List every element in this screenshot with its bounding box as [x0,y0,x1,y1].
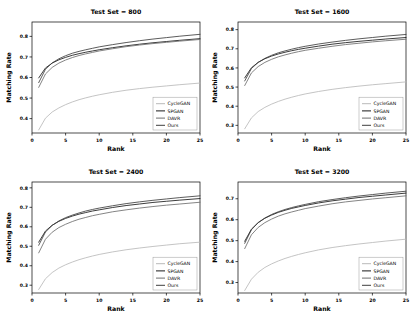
x-tick-label: 20 [163,298,169,303]
legend-label-cyclegan: CycleGAN [374,101,397,106]
y-axis-label: Matching Rate [5,212,13,263]
y-tick-label: 0.4 [226,259,234,264]
chart-panel-4: Test Set = 320005101520250.30.40.50.60.7… [206,160,412,319]
x-tick-label: 5 [270,298,273,303]
y-tick-label: 0.6 [20,75,28,80]
chart-panel-2: Test Set = 160005101520250.30.40.50.60.7… [206,0,412,160]
x-tick-label: 15 [130,138,136,143]
legend-label-davr: DAVR [168,116,181,121]
y-tick-label: 0.8 [20,186,28,191]
chart-panel-3: Test Set = 240005101520250.30.40.50.60.7… [0,160,206,319]
x-axis-label: Rank [313,305,331,312]
x-tick-label: 5 [270,138,273,143]
x-tick-label: 25 [403,298,409,303]
y-tick-label: 0.5 [226,85,234,90]
y-tick-label: 0.3 [226,280,234,285]
legend-label-davr: DAVR [374,116,387,121]
y-tick-label: 0.7 [20,205,28,210]
y-tick-label: 0.3 [226,123,234,128]
legend-label-spgan: SPGAN [374,269,390,274]
x-tick-label: 15 [336,138,342,143]
x-tick-label: 0 [236,298,239,303]
y-tick-label: 0.5 [20,96,28,101]
legend-label-ours: Ours [374,283,385,288]
x-tick-label: 25 [197,138,203,143]
y-tick-label: 0.3 [20,283,28,288]
x-tick-label: 0 [30,138,33,143]
x-tick-label: 10 [302,138,308,143]
legend-label-cyclegan: CycleGAN [374,261,397,266]
x-tick-label: 25 [403,138,409,143]
x-tick-label: 10 [302,298,308,303]
x-tick-label: 5 [64,298,67,303]
y-tick-label: 0.4 [226,104,234,109]
x-tick-label: 15 [130,298,136,303]
chart-panel-1: Test Set = 80005101520250.40.50.60.70.8R… [0,0,206,160]
x-tick-label: 0 [236,138,239,143]
x-tick-label: 15 [336,298,342,303]
legend-label-ours: Ours [168,283,179,288]
x-axis-label: Rank [107,145,125,152]
legend-label-spgan: SPGAN [168,269,184,274]
y-axis-label: Matching Rate [5,52,13,103]
x-tick-label: 10 [96,138,102,143]
x-tick-label: 5 [64,138,67,143]
y-axis-label: Matching Rate [211,212,219,263]
x-tick-label: 25 [197,298,203,303]
y-tick-label: 0.7 [226,46,234,51]
legend-label-davr: DAVR [374,276,387,281]
y-tick-label: 0.6 [226,217,234,222]
y-tick-label: 0.6 [20,224,28,229]
legend-label-cyclegan: CycleGAN [168,261,191,266]
y-tick-label: 0.5 [226,238,234,243]
x-tick-label: 0 [30,298,33,303]
x-tick-label: 20 [369,138,375,143]
legend-label-spgan: SPGAN [168,109,184,114]
panel-title: Test Set = 1600 [295,8,350,15]
y-tick-label: 0.6 [226,66,234,71]
legend-label-ours: Ours [374,123,385,128]
y-tick-label: 0.4 [20,116,28,121]
figure-grid: Test Set = 80005101520250.40.50.60.70.8R… [0,0,412,319]
legend-label-cyclegan: CycleGAN [168,101,191,106]
legend-label-spgan: SPGAN [374,109,390,114]
y-tick-label: 0.7 [20,55,28,60]
legend-label-ours: Ours [168,123,179,128]
panel-title: Test Set = 2400 [89,168,144,175]
y-tick-label: 0.7 [226,196,234,201]
x-axis-label: Rank [313,145,331,152]
y-tick-label: 0.5 [20,244,28,249]
x-tick-label: 20 [163,138,169,143]
legend-label-davr: DAVR [168,276,181,281]
panel-title: Test Set = 800 [91,8,142,15]
panel-title: Test Set = 3200 [295,168,350,175]
x-axis-label: Rank [107,305,125,312]
x-tick-label: 10 [96,298,102,303]
y-tick-label: 0.8 [226,27,234,32]
y-tick-label: 0.4 [20,263,28,268]
y-axis-label: Matching Rate [211,52,219,103]
x-tick-label: 20 [369,298,375,303]
y-tick-label: 0.8 [20,34,28,39]
